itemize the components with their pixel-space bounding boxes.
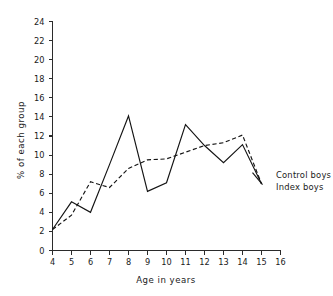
x-tick-label: 9 — [145, 257, 150, 267]
y-tick-label: 20 — [34, 55, 44, 65]
series-control-boys-line — [53, 135, 262, 229]
y-tick-label: 18 — [34, 74, 44, 84]
y-tick-label: 22 — [34, 36, 44, 46]
x-tick-label: 12 — [199, 257, 209, 267]
x-tick-label: 5 — [69, 257, 74, 267]
y-axis-tick-labels: 024681012141618202224 — [34, 17, 44, 256]
x-axis-ticks — [53, 251, 281, 255]
x-axis-title: Age in years — [136, 275, 196, 285]
legend-label-index-boys: Index boys — [276, 182, 323, 192]
x-tick-label: 8 — [126, 257, 131, 267]
line-chart-plot: 024681012141618202224 456789101112131415… — [0, 0, 333, 296]
y-tick-label: 8 — [39, 169, 44, 179]
y-tick-label: 14 — [34, 112, 44, 122]
y-tick-label: 24 — [34, 17, 44, 27]
y-tick-label: 0 — [39, 246, 44, 256]
y-tick-label: 6 — [39, 188, 44, 198]
x-tick-label: 6 — [88, 257, 93, 267]
x-tick-label: 11 — [180, 257, 190, 267]
y-tick-label: 4 — [39, 207, 44, 217]
chart-figure: 024681012141618202224 456789101112131415… — [0, 0, 333, 296]
x-tick-label: 15 — [256, 257, 266, 267]
y-tick-label: 2 — [39, 226, 44, 236]
y-tick-label: 10 — [34, 150, 44, 160]
series-index-boys-line — [53, 116, 262, 230]
legend-label-control-boys: Control boys — [276, 170, 331, 180]
y-axis-ticks — [49, 22, 53, 251]
x-tick-label: 13 — [218, 257, 228, 267]
x-axis-tick-labels: 45678910111213141516 — [50, 257, 286, 267]
x-tick-label: 4 — [50, 257, 55, 267]
x-tick-label: 7 — [107, 257, 112, 267]
x-tick-label: 10 — [161, 257, 171, 267]
y-tick-label: 16 — [34, 93, 44, 103]
y-tick-label: 12 — [34, 131, 44, 141]
x-tick-label: 14 — [237, 257, 247, 267]
x-tick-label: 16 — [275, 257, 285, 267]
y-axis-title: % of each group — [16, 101, 26, 179]
